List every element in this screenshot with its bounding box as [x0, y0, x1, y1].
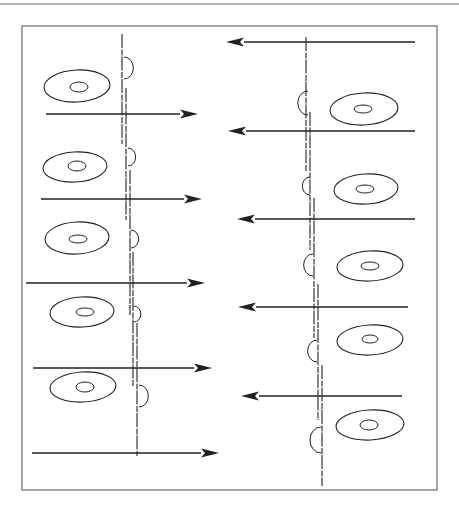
membrane-bump: [139, 385, 148, 407]
cell-outline: [336, 249, 403, 282]
arrow-left-icon: [226, 38, 244, 47]
cell-nucleus: [76, 382, 94, 392]
cell-nucleus: [70, 82, 88, 92]
cell-outline: [43, 68, 111, 103]
cell-outline: [335, 408, 404, 442]
membrane-bump: [128, 148, 136, 166]
cell-outline: [42, 150, 107, 183]
cell-nucleus: [362, 335, 378, 343]
diagram-figure: [0, 0, 459, 512]
cell: [336, 249, 403, 282]
membrane-bump: [302, 177, 310, 195]
cell-nucleus: [69, 235, 87, 243]
cell-nucleus: [361, 262, 379, 270]
cell: [44, 220, 110, 255]
cell-nucleus: [354, 105, 372, 113]
membrane-bump: [134, 306, 141, 322]
right-column: [226, 37, 415, 486]
cell: [49, 295, 114, 328]
cell: [335, 408, 404, 442]
membrane-bump: [308, 340, 317, 362]
cell-outline: [336, 323, 403, 356]
membrane-bump: [304, 254, 313, 276]
arrow-left-icon: [241, 392, 259, 401]
diagram-canvas: [0, 0, 459, 512]
arrow-right-icon: [201, 449, 219, 458]
arrow-left-icon: [238, 303, 256, 312]
cell: [42, 150, 107, 183]
cell: [333, 172, 398, 205]
left-column: [26, 34, 219, 458]
cell: [329, 91, 399, 127]
cell-outline: [44, 220, 110, 255]
arrow-right-icon: [187, 279, 205, 288]
arrow-right-icon: [180, 110, 198, 119]
arrow-right-icon: [184, 195, 202, 204]
cell: [43, 68, 111, 103]
cell-nucleus: [68, 161, 86, 171]
arrow-right-icon: [194, 364, 212, 373]
cell-nucleus: [76, 308, 94, 316]
cell-nucleus: [360, 420, 378, 430]
membrane-bump: [131, 230, 139, 248]
membrane-bump: [124, 57, 133, 79]
membrane-bump: [310, 427, 321, 453]
cell-nucleus: [356, 185, 374, 193]
cell-outline: [49, 295, 114, 328]
figure-frame: [22, 26, 437, 490]
cell-outline: [333, 172, 398, 205]
arrow-left-icon: [228, 127, 246, 136]
cell: [49, 370, 116, 403]
cell-outline: [329, 91, 399, 127]
cell-outline: [49, 370, 116, 403]
arrow-left-icon: [237, 215, 255, 224]
cell: [336, 323, 403, 356]
